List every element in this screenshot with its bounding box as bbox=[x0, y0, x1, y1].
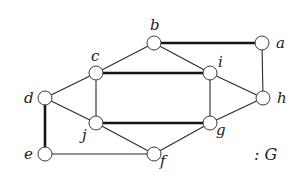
node-label-i: i bbox=[218, 53, 223, 71]
node-label-b: b bbox=[150, 16, 160, 34]
node-b bbox=[147, 36, 161, 50]
node-label-a: a bbox=[276, 34, 285, 52]
node-label-d: d bbox=[24, 89, 34, 107]
edge-c-d bbox=[45, 73, 96, 98]
node-a bbox=[255, 36, 269, 50]
edge-a-h bbox=[262, 43, 263, 98]
edge-g-f bbox=[154, 123, 210, 154]
edge-j-f bbox=[96, 123, 154, 154]
node-h bbox=[256, 91, 270, 105]
edge-b-i bbox=[154, 43, 210, 73]
graph-caption: : G bbox=[254, 145, 277, 164]
node-e bbox=[38, 147, 52, 161]
node-f bbox=[147, 147, 161, 161]
nodes-layer bbox=[38, 36, 270, 161]
node-i bbox=[203, 66, 217, 80]
node-label-h: h bbox=[277, 89, 287, 107]
node-label-c: c bbox=[91, 47, 100, 65]
node-g bbox=[203, 116, 217, 130]
edge-h-g bbox=[210, 98, 263, 123]
edge-d-j bbox=[45, 98, 96, 123]
graph-diagram: abcdefghij : G bbox=[0, 0, 301, 179]
node-d bbox=[38, 91, 52, 105]
edge-i-h bbox=[210, 73, 263, 98]
node-c bbox=[89, 66, 103, 80]
node-label-j: j bbox=[79, 126, 87, 144]
node-label-f: f bbox=[159, 152, 168, 170]
node-label-e: e bbox=[24, 145, 33, 163]
edge-b-c bbox=[96, 43, 154, 73]
edges-layer bbox=[45, 43, 263, 154]
node-label-g: g bbox=[216, 121, 226, 139]
node-j bbox=[89, 116, 103, 130]
